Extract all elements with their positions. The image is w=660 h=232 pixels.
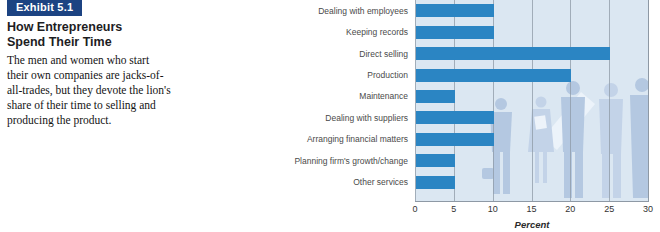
- category-axis: Dealing with employeesKeeping recordsDir…: [218, 0, 408, 201]
- plot-area: [415, 0, 649, 202]
- bar-keeping-records: [416, 26, 494, 39]
- x-axis: 051015202530: [415, 204, 649, 216]
- bar-dealing-with-employees: [416, 4, 494, 17]
- category-label: Direct selling: [359, 49, 408, 59]
- x-tick-label: 10: [488, 204, 498, 214]
- category-label: Other services: [353, 177, 408, 187]
- category-label: Planning firm's growth/change: [294, 156, 408, 166]
- bar-other-services: [416, 176, 455, 189]
- exhibit-description-line: all-trades, but they devote the lion's: [7, 83, 217, 98]
- exhibit-title: How EntrepreneursSpend Their Time: [7, 20, 207, 50]
- exhibit-description: The men and women who starttheir own com…: [7, 53, 217, 128]
- exhibit-description-line: producing the product.: [7, 113, 217, 128]
- x-tick-label: 15: [526, 204, 536, 214]
- gridline: [609, 0, 610, 201]
- gridline: [570, 0, 571, 201]
- exhibit-title-line: Spend Their Time: [7, 35, 207, 50]
- bar-arranging-financial-matters: [416, 133, 494, 146]
- exhibit-title-line: How Entrepreneurs: [7, 20, 207, 35]
- exhibit-badge: Exhibit 5.1: [7, 0, 82, 16]
- category-label: Production: [367, 70, 408, 80]
- x-tick-label: 0: [412, 204, 417, 214]
- bar-maintenance: [416, 90, 455, 103]
- category-label: Maintenance: [359, 91, 408, 101]
- x-tick-label: 20: [565, 204, 575, 214]
- gridline: [532, 0, 533, 201]
- x-tick-label: 30: [643, 204, 653, 214]
- x-tick-label: 25: [604, 204, 614, 214]
- exhibit-page: Exhibit 5.1 How EntrepreneursSpend Their…: [0, 0, 660, 232]
- category-label: Dealing with suppliers: [325, 113, 408, 123]
- x-tick-label: 5: [451, 204, 456, 214]
- bar-direct-selling: [416, 47, 610, 60]
- category-label: Arranging financial matters: [307, 134, 408, 144]
- category-label: Keeping records: [346, 27, 408, 37]
- bar-planning-firm-s-growth-change: [416, 154, 455, 167]
- exhibit-description-line: their own companies are jacks-of-: [7, 68, 217, 83]
- x-axis-title: Percent: [415, 219, 649, 230]
- exhibit-description-line: share of their time to selling and: [7, 98, 217, 113]
- gridline: [648, 0, 649, 201]
- exhibit-description-line: The men and women who start: [7, 53, 217, 68]
- category-label: Dealing with employees: [318, 6, 408, 16]
- bar-production: [416, 69, 571, 82]
- bar-dealing-with-suppliers: [416, 111, 494, 124]
